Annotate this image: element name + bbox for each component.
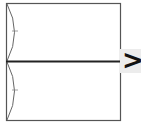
next-step-arrow-icon: > [122,45,141,75]
